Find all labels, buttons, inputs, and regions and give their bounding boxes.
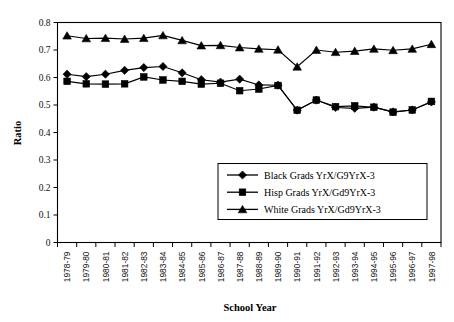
chart-figure: 00.10.20.30.40.50.60.70.8 1978-791979-80… xyxy=(0,0,454,322)
x-tick-label: 1978-79 xyxy=(62,251,72,282)
square-marker-icon xyxy=(313,97,320,104)
x-tick-label: 1995-96 xyxy=(388,251,398,282)
y-tick-label: 0.4 xyxy=(39,128,51,138)
square-marker-icon xyxy=(160,77,167,84)
x-axis-ticks xyxy=(58,243,442,248)
square-marker-icon xyxy=(102,81,109,88)
y-tick-label: 0.6 xyxy=(39,73,51,83)
x-tick-label: 1987-88 xyxy=(235,251,245,282)
y-tick-label: 0.8 xyxy=(39,18,51,28)
y-tick-label: 0.3 xyxy=(39,155,51,165)
y-tick-label: 0 xyxy=(46,238,51,248)
square-marker-icon xyxy=(428,98,435,105)
y-tick-label: 0.5 xyxy=(39,100,51,110)
square-marker-icon xyxy=(256,86,263,93)
x-tick-label: 1991-92 xyxy=(312,251,322,282)
x-tick-label: 1979-80 xyxy=(81,251,91,282)
square-marker-icon xyxy=(409,107,416,114)
x-tick-label: 1989-90 xyxy=(273,251,283,282)
square-marker-icon xyxy=(351,103,358,110)
x-tick-label: 1990-91 xyxy=(292,251,302,282)
square-marker-icon xyxy=(83,81,90,88)
line-chart: 00.10.20.30.40.50.60.70.8 1978-791979-80… xyxy=(0,0,454,322)
y-axis-tick-labels: 00.10.20.30.40.50.60.70.8 xyxy=(39,18,51,248)
x-tick-label: 1984-85 xyxy=(177,251,187,282)
square-marker-icon xyxy=(371,104,378,111)
square-marker-icon xyxy=(390,109,397,116)
square-marker-icon xyxy=(294,107,301,114)
legend-item-label: Hisp Grads YrX/Gd9YrX-3 xyxy=(264,187,375,198)
chart-legend: Black Grads YrX/G9YrX-3Hisp Grads YrX/Gd… xyxy=(218,164,427,220)
x-tick-label: 1986-87 xyxy=(216,251,226,282)
square-marker-icon xyxy=(64,78,71,85)
square-marker-icon xyxy=(332,103,339,110)
y-tick-label: 0.2 xyxy=(39,183,51,193)
y-axis-title: Ratio xyxy=(12,121,23,146)
legend-item-label: Black Grads YrX/G9YrX-3 xyxy=(264,170,375,181)
square-marker-icon xyxy=(198,81,205,88)
x-tick-label: 1992-93 xyxy=(331,251,341,282)
x-tick-label: 1988-89 xyxy=(254,251,264,282)
square-marker-icon xyxy=(179,78,186,85)
x-tick-label: 1997-98 xyxy=(427,251,437,282)
x-tick-label: 1982-83 xyxy=(139,251,149,282)
x-tick-label: 1996-97 xyxy=(407,251,417,282)
x-tick-label: 1980-81 xyxy=(101,251,111,282)
square-marker-icon xyxy=(140,74,147,81)
x-tick-label: 1993-94 xyxy=(350,251,360,282)
y-tick-label: 0.7 xyxy=(39,45,51,55)
x-tick-label: 1994-95 xyxy=(369,251,379,282)
square-marker-icon xyxy=(275,82,282,89)
x-tick-label: 1983-84 xyxy=(158,251,168,282)
x-tick-label: 1985-86 xyxy=(197,251,207,282)
legend-item-label: White Grads YrX/Gd9YrX-3 xyxy=(264,204,381,215)
square-marker-icon xyxy=(236,87,243,94)
square-marker-icon xyxy=(239,189,246,196)
x-tick-label: 1981-82 xyxy=(120,251,130,282)
square-marker-icon xyxy=(217,80,224,87)
x-axis-title: School Year xyxy=(224,302,277,313)
y-tick-label: 0.1 xyxy=(39,210,51,220)
square-marker-icon xyxy=(121,81,128,88)
